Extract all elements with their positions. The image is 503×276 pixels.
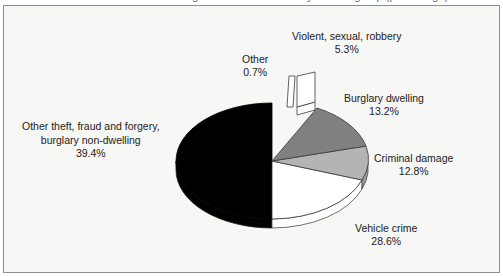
chart-panel: Violent, sexual, robbery 5.3% Other 0.7%… — [3, 5, 500, 273]
slice-label-text: Violent, sexual, robbery — [292, 30, 402, 42]
slice-top-other-theft — [176, 103, 272, 219]
slice-top-violent-sexual-robbery — [297, 72, 315, 107]
slice-label-percent: 39.4% — [22, 147, 160, 161]
slice-label-criminal-damage: Criminal damage 12.8% — [374, 152, 453, 178]
slice-label-percent: 28.6% — [355, 235, 417, 248]
slice-label-text-line2: burglary non-dwelling — [22, 134, 160, 148]
slice-label-percent: 0.7% — [242, 66, 268, 79]
slice-label-other: Other 0.7% — [242, 53, 268, 79]
slice-label-text: Burglary dwelling — [344, 92, 424, 104]
screenshot-root: Figure: Recorded crime by offence group … — [0, 0, 503, 276]
slice-label-vehicle-crime: Vehicle crime 28.6% — [355, 222, 417, 248]
slice-label-text: Criminal damage — [374, 152, 453, 164]
slice-label-text: Other — [242, 53, 268, 65]
slice-label-burglary-dwelling: Burglary dwelling 13.2% — [344, 92, 424, 118]
slice-label-violent-sexual-robbery: Violent, sexual, robbery 5.3% — [292, 30, 402, 56]
slice-top-other — [287, 76, 295, 107]
cut-off-title-text: Figure: Recorded crime by offence group … — [183, 0, 448, 2]
slice-label-percent: 13.2% — [344, 105, 424, 118]
slice-label-text-line1: Other theft, fraud and forgery, — [22, 120, 160, 132]
slice-label-percent: 12.8% — [374, 165, 453, 178]
slice-label-text: Vehicle crime — [355, 222, 417, 234]
slice-label-percent: 5.3% — [292, 43, 402, 56]
slice-label-other-theft: Other theft, fraud and forgery, burglary… — [22, 120, 160, 161]
